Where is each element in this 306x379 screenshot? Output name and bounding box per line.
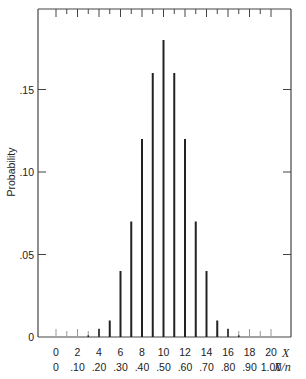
x-tick-label: 0	[53, 346, 59, 358]
x-axis-title: X	[281, 346, 290, 360]
probability-bars	[88, 40, 239, 337]
x-tick-label: 2	[75, 346, 81, 358]
proportion-tick-label: .60	[178, 361, 193, 373]
x-tick-label: 16	[222, 346, 234, 358]
proportion-axis-title: X/n	[273, 360, 291, 374]
proportion-tick-label: .10	[70, 361, 85, 373]
probability-bar-chart: 02468101214161820 0.10.20.30.40.50.60.70…	[0, 0, 306, 379]
proportion-tick-label: .70	[199, 361, 214, 373]
proportion-tick-label: .30	[113, 361, 128, 373]
top-axis-ticks	[56, 9, 271, 17]
proportion-tick-label: .80	[221, 361, 236, 373]
proportion-tick-label: .50	[156, 361, 171, 373]
x-tick-label: 4	[96, 346, 102, 358]
y-axis-labels: 0.05.10.15	[19, 84, 34, 344]
x-tick-label: 6	[118, 346, 124, 358]
x-tick-label: 20	[265, 346, 277, 358]
x-tick-label: 10	[158, 346, 170, 358]
proportion-axis-labels: 0.10.20.30.40.50.60.70.80.901.00	[53, 361, 281, 373]
proportion-tick-label: .90	[242, 361, 257, 373]
x-tick-label: 18	[244, 346, 256, 358]
y-tick-label: .10	[19, 166, 34, 178]
y-tick-label: .15	[19, 84, 34, 96]
x-tick-label: 8	[139, 346, 145, 358]
x-axis-labels: 02468101214161820	[53, 346, 277, 358]
y-axis-title: Probability	[5, 147, 17, 197]
x-tick-label: 12	[179, 346, 191, 358]
proportion-tick-label: .40	[135, 361, 150, 373]
x-tick-label: 14	[201, 346, 213, 358]
proportion-tick-label: 0	[53, 361, 59, 373]
y-tick-label: .05	[19, 249, 34, 261]
proportion-tick-label: .20	[92, 361, 107, 373]
y-tick-label: 0	[28, 331, 34, 343]
